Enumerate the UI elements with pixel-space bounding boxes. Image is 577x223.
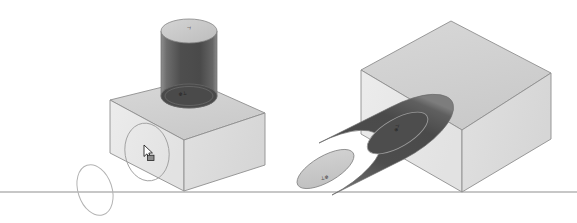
right-cylinder-near-cap[interactable] xyxy=(291,142,359,197)
left-assembly[interactable]: ⊥ ⊕⊥ xyxy=(110,19,265,191)
left-cylinder-bottom-cap[interactable] xyxy=(161,84,217,108)
construction-ellipse[interactable] xyxy=(71,160,119,220)
left-cylinder-top-cap[interactable] xyxy=(161,19,217,43)
cursor-badge-icon xyxy=(148,155,154,160)
right-assembly[interactable]: ⊕⊥ ⊥⊕ xyxy=(291,21,551,196)
scene-canvas[interactable]: ⊥ ⊕⊥ ⊕⊥ ⊥⊕ xyxy=(0,0,577,223)
construction-ellipse-group[interactable] xyxy=(71,160,119,220)
cad-viewport[interactable]: ⊥ ⊕⊥ ⊕⊥ ⊥⊕ xyxy=(0,0,577,223)
